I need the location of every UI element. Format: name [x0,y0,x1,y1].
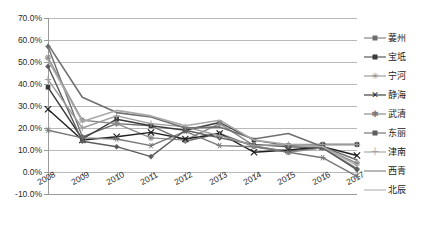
y-axis-label: 60.0% [18,36,42,45]
legend-item-7[interactable]: ＋津南 [364,142,428,161]
legend-item-6[interactable]: 东丽 [364,123,428,142]
legend-item-2[interactable]: 宝坻 [364,47,428,66]
plus-marker-icon: ＋ [364,146,386,158]
y-axis-label: 40.0% [18,80,42,89]
y-axis-label: 70.0% [18,14,42,23]
legend-label: 武清 [388,109,406,119]
legend-item-3[interactable]: ✳宁河 [364,66,428,85]
y-axis-label: 30.0% [18,102,42,111]
chart-legend: 葁州宝坻✳宁河✕静海✱武清东丽＋津南西青北辰 [364,28,428,199]
y-axis-label: -10.0% [15,190,42,199]
x-marker-icon: ✕ [364,89,386,101]
y-axis-label: 50.0% [18,58,42,67]
series-line [48,47,357,169]
line-only-icon [364,184,386,196]
y-axis-label: 20.0% [18,124,42,133]
diamond-marker-icon [364,32,386,44]
series-3 [45,55,360,167]
x-axis-line [48,194,357,195]
legend-label: 津南 [388,147,406,157]
series-layer [48,18,357,194]
line-chart: 70.0%60.0%50.0%40.0%30.0%20.0%10.0%0.0%-… [0,0,429,238]
legend-item-4[interactable]: ✕静海 [364,85,428,104]
star-marker-icon: ✳ [364,70,386,82]
plot-area: 70.0%60.0%50.0%40.0%30.0%20.0%10.0%0.0%-… [48,18,357,194]
legend-label: 西青 [388,166,406,176]
line-only-icon [364,165,386,177]
asterisk-marker-icon: ✱ [364,108,386,120]
series-5 [45,128,360,180]
square-marker-icon [364,51,386,63]
legend-label: 葁州 [388,33,406,43]
legend-label: 宁河 [388,71,406,81]
legend-label: 静海 [388,90,406,100]
y-axis-label: 10.0% [18,146,42,155]
legend-item-9[interactable]: 北辰 [364,180,428,199]
legend-item-1[interactable]: 葁州 [364,28,428,47]
legend-label: 宝坻 [388,52,406,62]
legend-label: 东丽 [388,128,406,138]
legend-item-5[interactable]: ✱武清 [364,104,428,123]
series-1 [45,44,360,172]
diamond-marker-icon [364,127,386,139]
legend-item-8[interactable]: 西青 [364,161,428,180]
legend-label: 北辰 [388,185,406,195]
